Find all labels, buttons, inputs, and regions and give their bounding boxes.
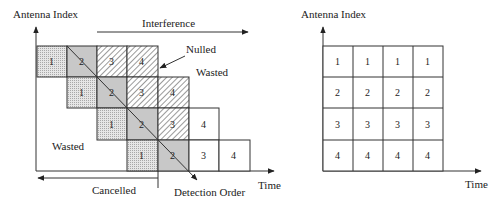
right-diagram: Antenna Index 1 1 1 1 2 2 2 2 3 3 3 3 4 … — [301, 8, 488, 190]
cell-label: 3 — [335, 119, 340, 130]
cell-label: 1 — [49, 56, 54, 67]
cell-label: 4 — [139, 56, 144, 67]
cell-label: 1 — [395, 56, 400, 67]
cell-label: 2 — [170, 150, 175, 161]
cell-label: 3 — [170, 119, 175, 130]
cell-label: 3 — [395, 119, 400, 130]
cell-label: 2 — [335, 87, 340, 98]
cell-label: 4 — [231, 150, 236, 161]
cell-label: 4 — [365, 150, 370, 161]
cell-label: 1 — [109, 119, 114, 130]
left-diagram: Antenna Index Interference 1 2 3 4 1 2 — [13, 8, 281, 198]
cell-label: 2 — [395, 87, 400, 98]
cell-label: 3 — [109, 56, 114, 67]
wasted-left-label: Wasted — [52, 140, 85, 152]
cell-label: 1 — [365, 56, 370, 67]
cell-label: 1 — [335, 56, 340, 67]
right-y-axis-label: Antenna Index — [301, 8, 367, 20]
cell-label: 1 — [139, 150, 144, 161]
left-row-1: 1 2 3 4 — [37, 46, 158, 77]
cell-label: 4 — [395, 150, 400, 161]
right-grid: 1 1 1 1 2 2 2 2 3 3 3 3 4 4 4 4 — [323, 46, 443, 171]
left-x-axis-label: Time — [258, 179, 281, 191]
cell-label: 1 — [79, 87, 84, 98]
nulled-arrow — [160, 56, 185, 68]
left-row-3: 1 2 3 4 — [97, 108, 219, 140]
left-row-4: 1 2 3 4 — [127, 140, 250, 171]
left-y-axis-label: Antenna Index — [13, 8, 79, 20]
cell-label: 4 — [170, 87, 175, 98]
cell-label: 4 — [201, 119, 206, 130]
wasted-top-label: Wasted — [196, 66, 229, 78]
nulled-label: Nulled — [186, 43, 216, 55]
cell-label: 2 — [425, 87, 430, 98]
cancelled-label: Cancelled — [92, 184, 136, 196]
cell-label: 2 — [365, 87, 370, 98]
cell-label: 3 — [365, 119, 370, 130]
cell-label: 1 — [425, 56, 430, 67]
interference-label: Interference — [142, 17, 195, 29]
cell-label: 3 — [201, 150, 206, 161]
left-row-2: 1 2 3 4 — [67, 77, 189, 108]
detection-order-label: Detection Order — [174, 186, 245, 198]
cell-label: 3 — [139, 87, 144, 98]
cell-label: 3 — [425, 119, 430, 130]
cell-label: 4 — [425, 150, 430, 161]
cell-label: 4 — [335, 150, 340, 161]
diagram-canvas: Antenna Index Interference 1 2 3 4 1 2 — [0, 0, 503, 203]
right-x-axis-label: Time — [465, 178, 488, 190]
